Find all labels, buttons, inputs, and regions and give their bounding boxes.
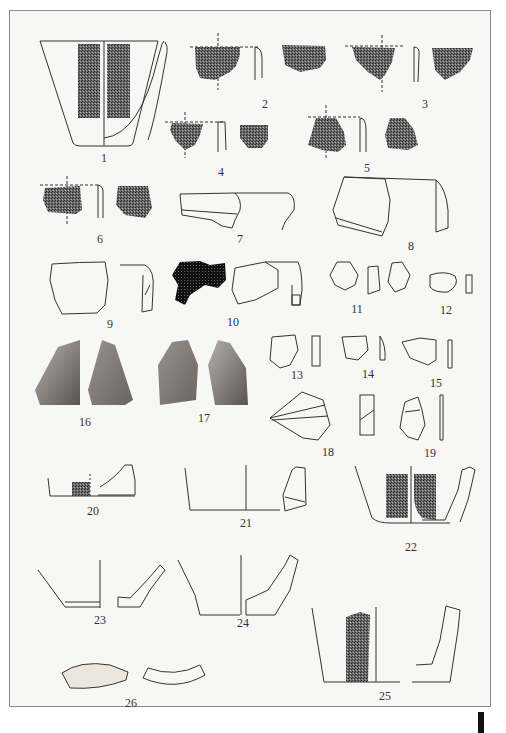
figure-20-drawing [48, 465, 135, 496]
figure-4-drawing [165, 112, 268, 158]
figure-12-drawing [430, 273, 472, 293]
figure-label-14: 14 [362, 368, 374, 380]
figure-26-drawing [62, 664, 205, 689]
figure-8-drawing [333, 177, 448, 236]
figure-22-drawing [355, 466, 475, 523]
figure-18-drawing [270, 392, 374, 440]
figure-21-drawing [185, 465, 306, 511]
figure-label-25: 25 [379, 690, 391, 702]
figure-6-drawing [40, 176, 152, 224]
figure-24-drawing [178, 555, 298, 615]
figure-label-26: 26 [125, 697, 137, 709]
figure-label-11: 11 [351, 303, 363, 315]
figure-label-20: 20 [87, 505, 99, 517]
figure-3-drawing [345, 35, 473, 92]
figure-label-13: 13 [291, 369, 303, 381]
figure-25-drawing [312, 606, 460, 682]
figure-label-19: 19 [424, 447, 436, 459]
figure-7-drawing [180, 193, 294, 230]
figure-5-drawing [308, 105, 418, 160]
figure-14-drawing [342, 336, 385, 360]
figure-1-drawing [40, 41, 167, 146]
figure-label-9: 9 [107, 318, 113, 330]
figure-label-4: 4 [218, 166, 224, 178]
figure-label-5: 5 [364, 162, 370, 174]
figure-label-16: 16 [79, 416, 91, 428]
figure-label-21: 21 [240, 517, 252, 529]
figure-label-3: 3 [422, 98, 428, 110]
figure-label-12: 12 [440, 304, 452, 316]
figure-label-8: 8 [408, 240, 414, 252]
figure-17-photo [158, 340, 248, 405]
figure-label-22: 22 [405, 541, 417, 553]
plate-drawings [0, 0, 506, 733]
figure-label-15: 15 [430, 377, 442, 389]
figure-label-18: 18 [322, 446, 334, 458]
figure-label-7: 7 [237, 233, 243, 245]
figure-9-drawing [50, 262, 153, 314]
figure-label-6: 6 [97, 233, 103, 245]
artifact-plate: 1 2 3 4 5 6 7 8 9 10 11 12 13 14 15 16 1… [0, 0, 506, 733]
figure-label-1: 1 [101, 152, 107, 164]
figure-2-drawing [190, 33, 326, 90]
figure-10-drawing [172, 261, 302, 305]
figure-15-drawing [402, 338, 452, 368]
figure-label-23: 23 [94, 614, 106, 626]
figure-label-10: 10 [227, 316, 239, 328]
figure-16-photo [35, 340, 133, 405]
figure-13-drawing [270, 335, 320, 368]
figure-23-drawing [38, 560, 165, 608]
figure-label-17: 17 [198, 412, 210, 424]
scale-bar [478, 712, 484, 733]
figure-label-2: 2 [262, 98, 268, 110]
figure-19-drawing [400, 395, 443, 440]
figure-11-drawing [330, 262, 410, 294]
figure-label-24: 24 [237, 617, 249, 629]
